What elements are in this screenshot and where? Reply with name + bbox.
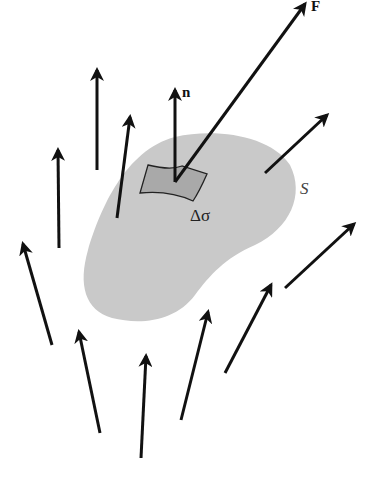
field-arrow — [23, 244, 52, 345]
field-arrow — [265, 115, 327, 173]
label-n: n — [182, 84, 190, 101]
diagram-svg — [0, 0, 370, 477]
field-arrow — [141, 356, 146, 458]
label-delta-sigma: Δσ — [190, 206, 210, 226]
field-arrow — [181, 312, 208, 420]
field-arrow — [285, 224, 354, 288]
label-s: S — [300, 179, 309, 199]
flux-diagram: F n Δσ S — [0, 0, 370, 477]
field-arrow — [225, 285, 271, 373]
field-arrow — [58, 150, 59, 248]
field-arrow — [79, 332, 100, 433]
label-f: F — [311, 0, 320, 15]
